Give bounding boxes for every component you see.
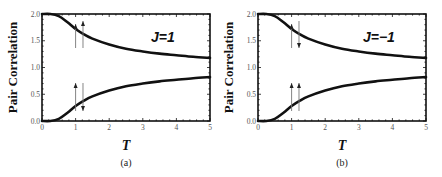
x-tick-label: 5 (424, 123, 428, 132)
y-tick-label: 1.5 (247, 36, 257, 45)
y-tick-label: 0.5 (247, 90, 257, 99)
y-tick-label: 0.0 (31, 117, 41, 126)
x-tick-label: 1 (74, 123, 78, 132)
chart-svg-a: 0123450.00.51.01.52.0J=1Pair Correlation… (0, 0, 221, 177)
spin-down-arrow-icon (81, 83, 85, 111)
plot-frame (42, 14, 210, 121)
x-tick-label: 1 (290, 123, 294, 132)
y-tick-label: 2.0 (31, 10, 41, 19)
chart-panel-a: 0123450.00.51.01.52.0J=1Pair Correlation… (0, 0, 221, 177)
spin-up-arrow-icon (290, 24, 294, 48)
x-tick-label: 0 (40, 123, 44, 132)
y-tick-label: 0.0 (247, 117, 257, 126)
y-axis-title: Pair Correlation (5, 21, 20, 113)
coupling-annotation: J=1 (151, 29, 175, 45)
x-tick-label: 0 (256, 123, 260, 132)
series-line-upper (258, 14, 426, 58)
x-tick-label: 4 (391, 123, 395, 132)
x-tick-label: 2 (323, 123, 327, 132)
series-line-lower (42, 77, 210, 121)
spin-up-arrow-icon (297, 83, 301, 111)
chart-panel-b: 0123450.00.51.01.52.0J=−1Pair Correlatio… (216, 0, 437, 177)
series-line-upper (42, 14, 210, 58)
y-tick-label: 1.5 (31, 36, 41, 45)
x-axis-title: T (122, 138, 132, 153)
y-tick-label: 1.0 (31, 63, 41, 72)
x-tick-label: 3 (141, 123, 145, 132)
panel-label: (b) (336, 157, 348, 169)
plot-frame (258, 14, 426, 121)
y-tick-label: 2.0 (247, 10, 257, 19)
x-axis-title: T (338, 138, 348, 153)
spin-up-arrow-icon (74, 24, 78, 48)
coupling-annotation: J=−1 (363, 29, 395, 45)
chart-svg-b: 0123450.00.51.01.52.0J=−1Pair Correlatio… (216, 0, 437, 177)
y-axis-title: Pair Correlation (221, 21, 236, 113)
x-tick-label: 4 (175, 123, 179, 132)
series-line-lower (258, 77, 426, 121)
panel-label: (a) (120, 157, 131, 169)
x-tick-label: 3 (357, 123, 361, 132)
y-tick-label: 0.5 (31, 90, 41, 99)
x-tick-label: 5 (208, 123, 212, 132)
y-tick-label: 1.0 (247, 63, 257, 72)
x-tick-label: 2 (107, 123, 111, 132)
